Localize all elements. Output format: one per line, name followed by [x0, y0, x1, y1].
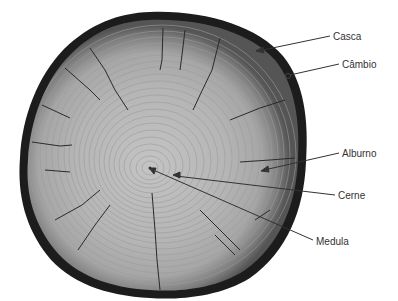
leader-cambio	[290, 64, 339, 75]
label-medula: Medula	[316, 236, 349, 247]
wood-body	[27, 20, 298, 291]
label-casca: Casca	[333, 31, 361, 42]
trunk-illustration	[0, 0, 398, 301]
label-alburno: Alburno	[342, 148, 376, 159]
label-cambio: Câmbio	[342, 59, 376, 70]
label-cerne: Cerne	[338, 190, 365, 201]
tree-cross-section-diagram: Casca Câmbio Alburno Cerne Medula	[0, 0, 398, 301]
